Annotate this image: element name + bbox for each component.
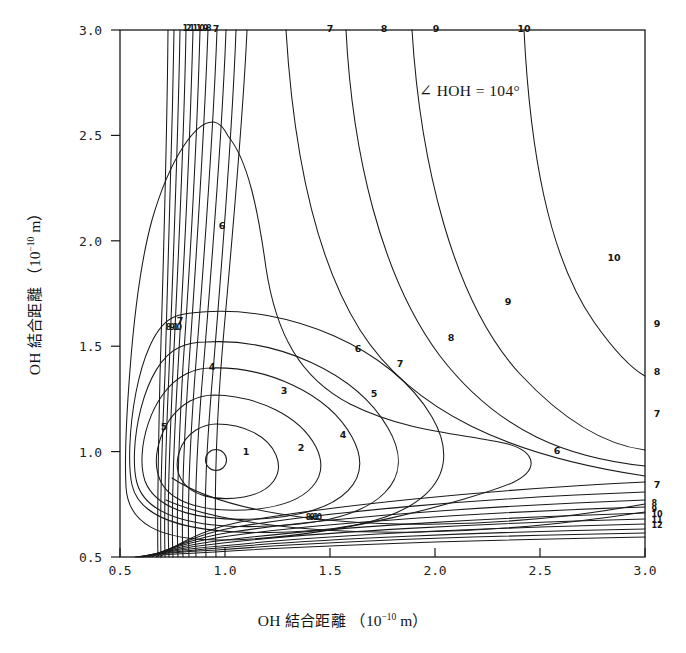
contour-label-edge-8: 8 (654, 367, 661, 377)
y-axis-title-unit-open: （10 (26, 252, 43, 287)
x-tick-0: 0.5 (98, 563, 142, 578)
y-tick-2: 1.5 (62, 339, 102, 354)
contour-wall-left-2 (195, 30, 226, 557)
wall-label-b10: 10 (313, 513, 320, 522)
contour-wall-left-3 (188, 30, 217, 557)
y-axis-title-prefix: OH (26, 348, 43, 375)
contour-label-7-mid: 7 (397, 359, 404, 369)
x-tick-1: 1.0 (203, 563, 247, 578)
contour-label-10-right: 10 (607, 253, 620, 263)
hoh-angle-annotation: ∠ HOH = 104° (419, 82, 520, 100)
contour-level-7-left (215, 30, 247, 557)
contour-label-top-7a: 7 (213, 24, 220, 34)
contour-label-4: 4 (209, 362, 216, 372)
contour-level-4 (134, 342, 398, 527)
x-tick-2: 1.5 (308, 563, 352, 578)
contour-level-2 (157, 395, 321, 510)
contour-wall-left-1 (205, 30, 236, 557)
contour-label-top-7b: 7 (327, 24, 334, 34)
contour-label-top-10: 10 (517, 24, 530, 34)
contour-label-1: 1 (243, 447, 250, 457)
x-axis-title-unit-close: m） (396, 612, 428, 629)
contour-label-3: 3 (281, 386, 288, 396)
contour-label-6-mid: 6 (355, 344, 362, 354)
x-axis-title-prefix: OH (258, 612, 285, 629)
contour-valley-sweep-2 (172, 478, 645, 524)
contour-label-6-upper: 6 (219, 221, 226, 231)
contour-lines (126, 30, 645, 557)
y-tick-5: 3.0 (62, 23, 102, 38)
contour-label-edge-9: 9 (654, 319, 661, 329)
x-axis-title-unit-open: （10 (346, 612, 381, 629)
x-axis-title-jp: 結合距離 (285, 612, 346, 630)
wall-label-12: 12 (183, 24, 190, 33)
plot-frame (120, 30, 645, 557)
contour-label-5-right: 5 (371, 389, 378, 399)
contour-wall-left-6 (172, 30, 193, 557)
contour-label-8-mid: 8 (448, 333, 455, 343)
contour-label-edge-7: 7 (654, 409, 661, 419)
wall-labels-bottom-mid: 8910 (306, 514, 320, 522)
y-axis-title-unit-exponent: −10 (26, 237, 36, 252)
y-tick-1: 1.0 (62, 445, 102, 460)
y-tick-3: 2.0 (62, 234, 102, 249)
x-axis-title-unit-exponent: −10 (381, 612, 396, 622)
x-tick-3: 2.0 (413, 563, 457, 578)
contour-level-6 (126, 122, 531, 540)
contour-label-5: 5 (161, 422, 168, 432)
y-axis-title: OH 結合距離 （10−10 m） (22, 205, 44, 376)
wall-labels-left-mid: 8910 (166, 324, 180, 332)
contour-level-10-right (524, 30, 645, 376)
contour-plot-figure: 0.5 1.0 1.5 2.0 2.5 3.0 0.5 1.0 1.5 2.0 … (0, 0, 686, 653)
axis-ticks (111, 30, 645, 557)
potential-energy-contour-canvas (0, 0, 686, 653)
x-axis-title: OH 結合距離 （10−10 m） (0, 608, 686, 630)
wall-labels-top-left: 12111098 (183, 25, 210, 33)
contour-label-9-right: 9 (505, 297, 512, 307)
y-axis-title-unit-close: m） (26, 205, 43, 237)
y-axis-title-jp: 結合距離 (26, 287, 44, 348)
y-tick-4: 2.5 (62, 128, 102, 143)
wall-label-8: 8 (206, 24, 209, 33)
wall-label-l10: 10 (173, 323, 180, 332)
contour-label-2: 2 (298, 443, 305, 453)
contour-label-top-9: 9 (433, 24, 440, 34)
wall-label-r12: 12 (651, 523, 662, 529)
y-tick-0: 0.5 (62, 550, 102, 565)
wall-labels-right-bottom: 8 9 10 11 12 (651, 501, 662, 529)
contour-wall-left-4 (182, 30, 208, 557)
y-axis-title-wrapper: OH 結合距離 （10−10 m） (10, 0, 56, 580)
contour-level-1 (177, 424, 278, 499)
x-tick-4: 2.5 (518, 563, 562, 578)
contour-label-top-8: 8 (381, 24, 388, 34)
contour-label-6-lower-right: 6 (554, 446, 561, 456)
x-tick-5: 3.0 (623, 563, 667, 578)
contour-label-edge-7b: 7 (654, 480, 661, 490)
contour-label-4-right: 4 (340, 430, 347, 440)
